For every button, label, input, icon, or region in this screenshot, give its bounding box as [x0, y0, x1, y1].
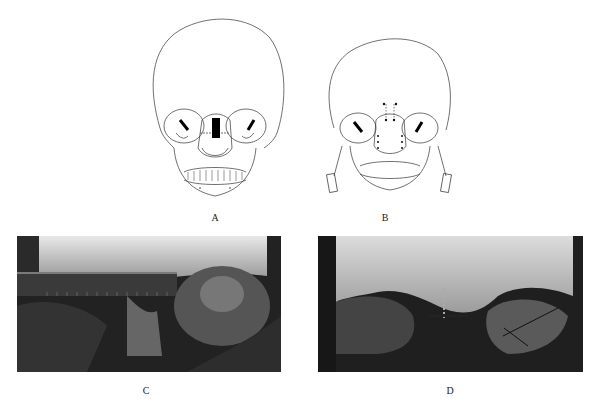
panel-label-d: D [440, 385, 460, 396]
panel-c-photo [17, 236, 281, 372]
skull-drawing-a [140, 8, 290, 198]
fixation-points [377, 103, 403, 149]
graft-bar [212, 118, 220, 138]
fixation-line [386, 104, 394, 122]
panel-label-c: C [136, 385, 156, 396]
left-mandible-segment [326, 173, 337, 192]
left-orbit-mark [180, 120, 188, 130]
surgical-photo-c [17, 236, 281, 372]
panel-label-b: B [375, 212, 395, 223]
skull-drawing-b [320, 28, 460, 198]
surgical-photo-d [318, 236, 583, 372]
cranium-outline [153, 19, 284, 130]
right-orbit-mark [248, 120, 254, 130]
right-mandible-segment [440, 173, 451, 192]
mandible [350, 146, 430, 190]
panel-d-photo [318, 236, 583, 372]
panel-a-illustration [140, 8, 290, 198]
panel-b-illustration [320, 28, 460, 198]
panel-label-a: A [205, 212, 225, 223]
